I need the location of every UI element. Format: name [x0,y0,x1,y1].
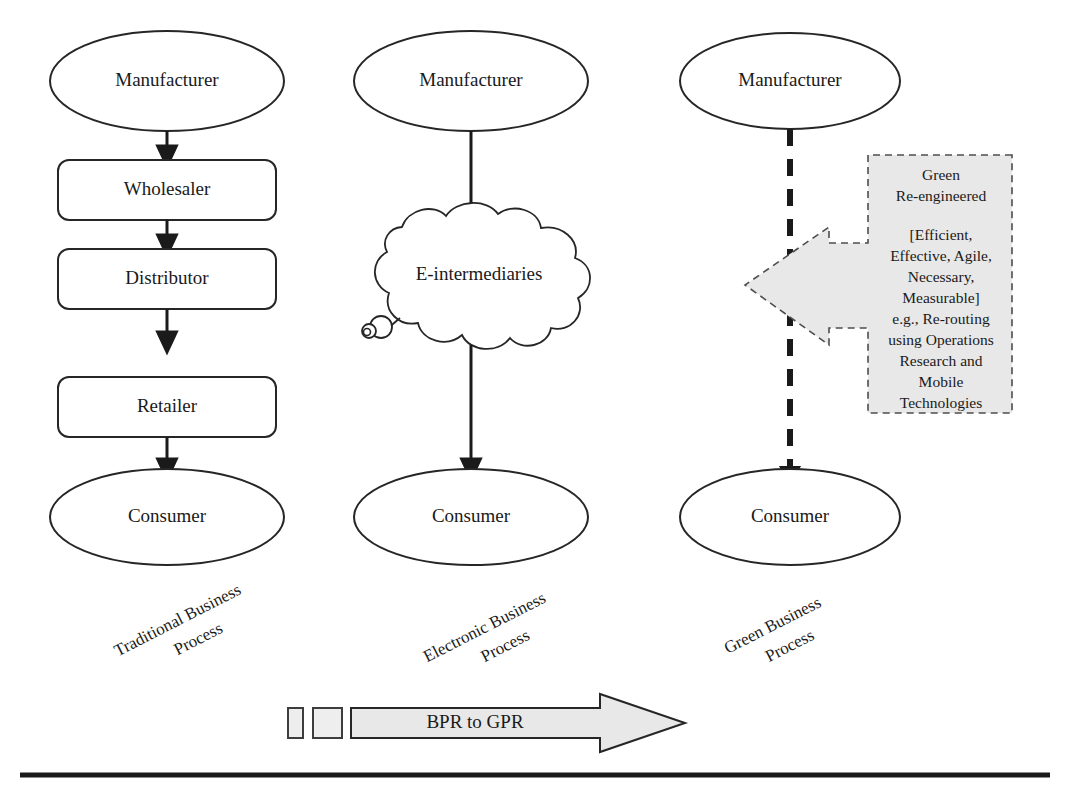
callout-line-9: using Operations [888,331,993,348]
node-e-intermediaries[interactable]: E-intermediaries [362,203,590,349]
caption-traditional: Traditional Business Process [111,580,256,683]
callout-line-1: Green [922,166,960,183]
process-diagram: Manufacturer Wholesaler Distributor Reta… [0,0,1067,793]
node-label: Consumer [751,505,830,526]
callout-line-2: Re-engineered [896,187,987,204]
callout-line-6: Necessary, [908,268,975,285]
node-manufacturer-green[interactable]: Manufacturer [680,33,900,129]
node-manufacturer-electronic[interactable]: Manufacturer [354,31,588,131]
node-label: Retailer [137,395,198,416]
callout-line-8: e.g., Re-routing [892,310,990,327]
figure-canvas: Manufacturer Wholesaler Distributor Reta… [0,0,1067,793]
node-consumer-green[interactable]: Consumer [680,469,900,565]
node-label: E-intermediaries [416,263,543,284]
node-manufacturer-traditional[interactable]: Manufacturer [50,31,284,131]
banner-label: BPR to GPR [426,711,523,732]
caption-green: Green Business Process [721,593,836,681]
node-label: Wholesaler [124,178,211,199]
node-consumer-traditional[interactable]: Consumer [50,469,284,565]
node-distributor[interactable]: Distributor [58,249,276,309]
callout-line-12: Technologies [900,394,982,411]
node-label: Consumer [432,505,511,526]
callout-line-4: [Efficient, [910,226,973,243]
node-wholesaler[interactable]: Wholesaler [58,160,276,220]
node-label: Consumer [128,505,207,526]
callout-line-5: Effective, Agile, [890,247,992,264]
caption-electronic: Electronic Business Process [420,588,560,689]
callout-line-7: Measurable] [902,289,979,306]
column-green: Manufacturer Consumer Green Business Pro… [680,33,900,681]
callout-line-10: Research and [899,352,982,369]
marker-square-small [288,708,303,738]
marker-square-large [313,708,342,738]
bpr-to-gpr-banner[interactable]: BPR to GPR [288,694,685,752]
node-retailer[interactable]: Retailer [58,377,276,437]
node-consumer-electronic[interactable]: Consumer [354,469,588,565]
column-traditional: Manufacturer Wholesaler Distributor Reta… [50,31,284,683]
node-label: Distributor [125,267,209,288]
column-electronic: Manufacturer E-intermediaries Consumer E… [354,31,590,689]
node-label: Manufacturer [419,69,523,90]
callout-line-11: Mobile [919,373,964,390]
node-label: Manufacturer [115,69,219,90]
node-label: Manufacturer [738,69,842,90]
cloud-bubble-small [364,329,371,336]
green-reengineered-callout[interactable]: Green Re-engineered [Efficient, Effectiv… [745,155,1012,413]
